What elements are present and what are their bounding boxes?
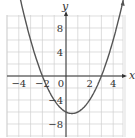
x-tick-label: −2: [35, 78, 50, 89]
x-tick-label: −4: [11, 78, 26, 89]
tick-labels: −4−202484−4−8xy: [11, 0, 135, 130]
axes: [7, 11, 127, 137]
y-axis-label: y: [61, 0, 69, 13]
y-tick-label: −4: [48, 95, 63, 106]
y-tick-label: 4: [57, 47, 63, 58]
x-tick-label: 4: [110, 78, 116, 89]
x-axis-label: x: [129, 69, 135, 82]
y-tick-label: 8: [57, 23, 63, 34]
parabola-chart: −4−202484−4−8xy: [0, 0, 135, 138]
x-tick-label: 2: [86, 78, 92, 89]
x-tick-label: 0: [58, 78, 64, 89]
parabola-curve: [15, 0, 124, 114]
y-tick-label: −8: [48, 119, 63, 130]
